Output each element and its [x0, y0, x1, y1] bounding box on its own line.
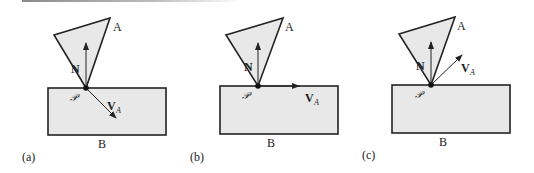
body-a — [399, 17, 455, 85]
panel-label: (b) — [190, 150, 204, 164]
panel-label: (a) — [22, 150, 35, 164]
body-a-label: A — [285, 20, 294, 34]
velocity-label: V — [461, 61, 470, 75]
normal-label: N — [416, 59, 425, 73]
velocity-subscript: A — [313, 98, 319, 107]
panel-b: A B N 𝒫 V A (b) — [190, 18, 338, 164]
body-a-label: A — [113, 20, 122, 34]
body-a — [54, 18, 110, 88]
contact-point — [83, 85, 89, 91]
contact-point — [428, 82, 434, 88]
contact-point — [255, 83, 261, 89]
velocity-subscript: A — [469, 68, 475, 77]
panel-a: A B N 𝒫 V A (a) — [22, 18, 166, 164]
body-a — [226, 18, 283, 86]
velocity-label: V — [305, 91, 314, 105]
body-a-label: A — [457, 19, 466, 33]
body-b-label: B — [267, 136, 275, 150]
normal-label: N — [244, 60, 253, 74]
panel-label: (c) — [362, 148, 375, 162]
body-b — [392, 85, 510, 133]
body-b-label: B — [439, 135, 447, 149]
panel-c: A B N 𝒫 V A (c) — [362, 17, 510, 162]
velocity-label: V — [107, 99, 116, 113]
body-b — [220, 86, 338, 134]
velocity-subscript: A — [115, 106, 121, 115]
contact-diagram: A B N 𝒫 V A (a) A B N 𝒫 V A (b) A B N 𝒫 … — [0, 0, 534, 173]
body-b-label: B — [98, 137, 106, 151]
normal-label: N — [71, 62, 80, 76]
